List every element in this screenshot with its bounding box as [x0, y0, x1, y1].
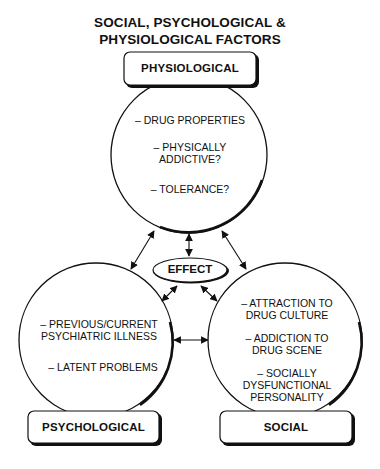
item-line: – ATTRACTION TO [214, 297, 360, 309]
social-label: SOCIAL [220, 421, 352, 434]
item-line: – TOLERANCE? [119, 183, 261, 195]
item-line: – PHYSICALLY [119, 141, 261, 153]
item-line: – ADDICTION TO [214, 332, 360, 344]
arrow-physiological-psychological [131, 231, 154, 269]
effect-label: EFFECT [153, 263, 227, 276]
psychological-item-2: – LATENT PROBLEMS [30, 361, 176, 373]
social-item-2: – ADDICTION TO DRUG SCENE [214, 332, 360, 356]
physiological-item-1: – DRUG PROPERTIES [119, 114, 261, 126]
diagram-title: SOCIAL, PSYCHOLOGICAL & PHYSIOLOGICAL FA… [60, 14, 320, 48]
item-line: PSYCHIATRIC ILLNESS [26, 330, 172, 342]
title-line-1: SOCIAL, PSYCHOLOGICAL & [60, 14, 320, 31]
item-line: DYSFUNCTIONAL [214, 379, 360, 391]
physiological-item-2: – PHYSICALLY ADDICTIVE? [119, 141, 261, 165]
item-line: – PREVIOUS/CURRENT [26, 318, 172, 330]
social-item-3: – SOCIALLY DYSFUNCTIONAL PERSONALITY [214, 367, 360, 403]
item-line: – SOCIALLY [214, 367, 360, 379]
physiological-label: PHYSIOLOGICAL [124, 62, 256, 75]
item-line: DRUG SCENE [214, 344, 360, 356]
physiological-item-3: – TOLERANCE? [119, 183, 261, 195]
psychological-item-1: – PREVIOUS/CURRENT PSYCHIATRIC ILLNESS [26, 318, 172, 342]
item-line: – DRUG PROPERTIES [119, 114, 261, 126]
psychological-label: PSYCHOLOGICAL [28, 421, 159, 434]
item-line: ADDICTIVE? [119, 153, 261, 165]
social-item-1: – ATTRACTION TO DRUG CULTURE [214, 297, 360, 321]
title-line-2: PHYSIOLOGICAL FACTORS [60, 31, 320, 48]
item-line: DRUG CULTURE [214, 309, 360, 321]
item-line: PERSONALITY [214, 391, 360, 403]
item-line: – LATENT PROBLEMS [30, 361, 176, 373]
arrow-effect-psychological [162, 286, 177, 301]
diagram: SOCIAL, PSYCHOLOGICAL & PHYSIOLOGICAL FA… [0, 0, 380, 469]
